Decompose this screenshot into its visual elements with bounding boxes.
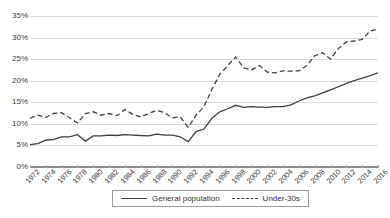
y-axis-tick-label: 25% [0, 55, 28, 63]
y-axis-tick-label: 20% [0, 77, 28, 85]
x-axis-tick-mark [93, 165, 94, 168]
x-axis-tick-mark [141, 165, 142, 168]
legend-item: General population [121, 194, 220, 203]
x-axis-tick-mark [188, 165, 189, 168]
y-axis-tick-label: 35% [0, 12, 28, 20]
legend-swatch-solid [121, 198, 147, 200]
x-axis-tick-mark [283, 165, 284, 168]
x-axis-tick-mark [251, 165, 252, 168]
y-axis-tick-label: 15% [0, 98, 28, 106]
x-axis-tick-mark [267, 165, 268, 168]
x-axis-tick-mark [378, 165, 379, 168]
x-axis-tick-mark [331, 165, 332, 168]
x-axis-tick-mark [362, 165, 363, 168]
x-axis-tick-mark [315, 165, 316, 168]
legend-swatch-dashed [232, 198, 258, 200]
legend-label: General population [152, 194, 220, 203]
x-axis-tick-mark [109, 165, 110, 168]
x-axis-tick-mark [46, 165, 47, 168]
series-line-general-population [30, 73, 378, 145]
y-axis: 0%5%10%15%20%25%30%35% [0, 0, 28, 167]
y-axis-tick-label: 5% [0, 141, 28, 149]
x-axis-tick-mark [299, 165, 300, 168]
y-axis-tick-label: 0% [0, 163, 28, 171]
x-axis-tick-mark [236, 165, 237, 168]
chart-legend: General populationUnder-30s [112, 190, 309, 207]
x-axis-tick-mark [346, 165, 347, 168]
x-axis-tick-mark [172, 165, 173, 168]
y-axis-tick-label: 30% [0, 34, 28, 42]
x-axis-tick-mark [30, 165, 31, 168]
x-axis-tick-mark [77, 165, 78, 168]
x-axis-tick-mark [220, 165, 221, 168]
legend-item: Under-30s [232, 194, 300, 203]
y-axis-tick-label: 10% [0, 120, 28, 128]
x-axis-tick-mark [204, 165, 205, 168]
plot-area [30, 16, 378, 167]
x-axis-tick-mark [157, 165, 158, 168]
legend-label: Under-30s [263, 194, 300, 203]
x-axis-tick-mark [125, 165, 126, 168]
series-lines [30, 16, 378, 167]
x-axis-tick-mark [62, 165, 63, 168]
series-line-under-30s [30, 29, 378, 127]
